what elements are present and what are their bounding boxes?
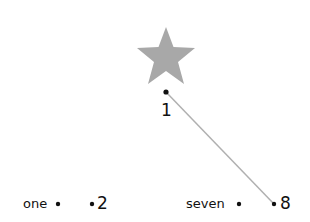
node-label-seven: seven [186, 197, 225, 210]
node-label-1: 1 [161, 102, 172, 119]
node-dot-2[interactable] [90, 202, 94, 206]
node-dot-one[interactable] [56, 202, 60, 206]
node-label-8: 8 [280, 195, 291, 212]
node-dot-1[interactable] [163, 89, 168, 94]
star-icon [137, 27, 195, 84]
connector-line [166, 92, 274, 204]
node-label-one: one [23, 197, 47, 210]
node-label-2: 2 [97, 195, 108, 212]
node-dot-8[interactable] [272, 202, 276, 206]
diagram-canvas [0, 0, 310, 222]
node-dot-seven[interactable] [237, 202, 241, 206]
